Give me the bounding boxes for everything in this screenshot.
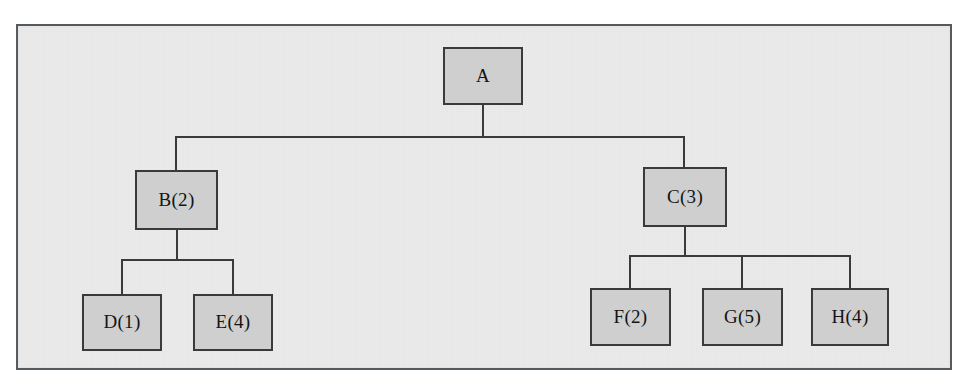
- tree-node-g-label: G(5): [724, 307, 761, 326]
- edge-bus-to-e: [232, 259, 234, 294]
- edge-bus-to-c: [683, 136, 685, 167]
- tree-node-e[interactable]: E(4): [193, 294, 273, 351]
- edge-bus-to-g: [741, 255, 743, 289]
- edge-bus-to-h: [849, 255, 851, 289]
- tree-node-h[interactable]: H(4): [811, 288, 889, 346]
- edge-bus-to-b: [175, 136, 177, 170]
- tree-node-c[interactable]: C(3): [643, 167, 727, 227]
- tree-diagram-canvas: A B(2) C(3) D(1) E(4) F(2) G(5) H(4): [0, 0, 972, 390]
- tree-node-a-label: A: [476, 66, 490, 85]
- tree-node-c-label: C(3): [667, 187, 703, 206]
- edge-a-stem: [482, 105, 484, 138]
- tree-node-a[interactable]: A: [443, 47, 523, 105]
- tree-node-h-label: H(4): [831, 307, 868, 326]
- tree-node-d[interactable]: D(1): [82, 294, 162, 351]
- tree-node-d-label: D(1): [103, 312, 140, 331]
- tree-node-b-label: B(2): [158, 190, 194, 209]
- edge-bus-to-d: [121, 259, 123, 294]
- tree-node-e-label: E(4): [216, 312, 251, 331]
- edge-c-bus: [629, 255, 851, 257]
- edge-a-bus: [175, 136, 684, 138]
- tree-node-f-label: F(2): [614, 307, 648, 326]
- tree-node-f[interactable]: F(2): [590, 288, 671, 346]
- tree-node-g[interactable]: G(5): [702, 288, 783, 346]
- edge-b-stem: [176, 230, 178, 260]
- tree-node-b[interactable]: B(2): [135, 170, 218, 230]
- edge-c-stem: [684, 227, 686, 256]
- edge-bus-to-f: [629, 255, 631, 289]
- edge-b-bus: [121, 259, 233, 261]
- scanned-page-background: A B(2) C(3) D(1) E(4) F(2) G(5) H(4): [0, 0, 972, 390]
